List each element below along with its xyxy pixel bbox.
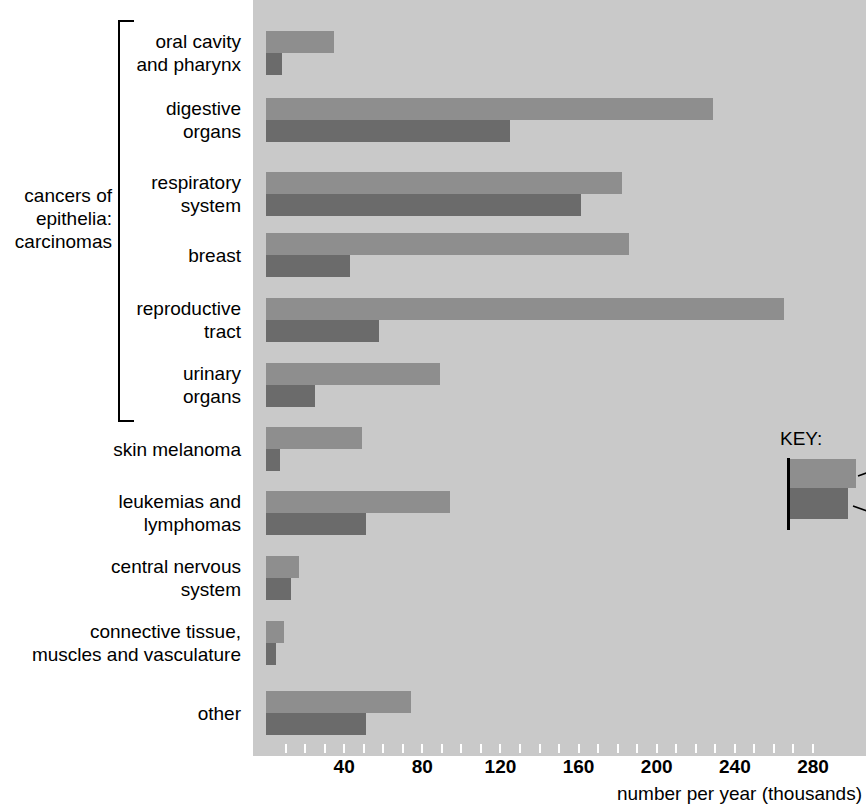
category-label: digestive organs bbox=[166, 97, 241, 143]
bar-deaths bbox=[266, 53, 282, 75]
bar-deaths bbox=[266, 513, 366, 535]
bar-deaths bbox=[266, 385, 315, 407]
bar-group-container bbox=[253, 0, 866, 756]
x-axis-tick bbox=[558, 744, 560, 753]
x-axis-tick bbox=[792, 744, 794, 753]
bar-deaths bbox=[266, 120, 510, 142]
bar-new-cases bbox=[266, 691, 411, 713]
x-axis-tick bbox=[773, 744, 775, 753]
x-axis-tick bbox=[597, 744, 599, 753]
x-axis-tick bbox=[539, 744, 541, 753]
x-axis-tick bbox=[617, 744, 619, 753]
bar-deaths bbox=[266, 194, 581, 216]
x-axis-tick bbox=[421, 744, 423, 753]
x-axis-tick bbox=[695, 744, 697, 753]
x-axis-tick bbox=[460, 744, 462, 753]
x-axis-tick-label: 80 bbox=[412, 756, 433, 778]
chart-legend: KEY: new cases per year (total = 1,220,0… bbox=[780, 428, 866, 568]
bar-new-cases bbox=[266, 172, 622, 194]
x-axis-tick bbox=[343, 744, 345, 753]
x-axis-tick bbox=[285, 744, 287, 753]
bar-new-cases bbox=[266, 98, 713, 120]
x-axis-tick bbox=[363, 744, 365, 753]
plot-area: KEY: new cases per year (total = 1,220,0… bbox=[253, 0, 866, 756]
x-axis-tick bbox=[441, 744, 443, 753]
x-axis-tick bbox=[304, 744, 306, 753]
bar-new-cases bbox=[266, 556, 299, 578]
category-label: respiratory system bbox=[151, 171, 241, 217]
x-axis-tick bbox=[324, 744, 326, 753]
bar-new-cases bbox=[266, 363, 440, 385]
x-axis-tick bbox=[578, 744, 580, 753]
x-axis-tick bbox=[519, 744, 521, 753]
legend-leader-lines bbox=[852, 448, 866, 558]
legend-swatch-deaths bbox=[790, 488, 848, 519]
category-label: reproductive tract bbox=[136, 297, 241, 343]
x-axis-tick bbox=[480, 744, 482, 753]
bar-deaths bbox=[266, 713, 366, 735]
bar-deaths bbox=[266, 578, 291, 600]
x-axis-tick bbox=[753, 744, 755, 753]
x-axis-tick-marks bbox=[253, 744, 866, 754]
bar-new-cases bbox=[266, 621, 284, 643]
x-axis-tick bbox=[636, 744, 638, 753]
category-label: urinary organs bbox=[183, 362, 241, 408]
bar-deaths bbox=[266, 643, 276, 665]
x-axis-tick bbox=[499, 744, 501, 753]
category-label: connective tissue, muscles and vasculatu… bbox=[32, 620, 241, 666]
x-axis-tick bbox=[382, 744, 384, 753]
legend-title: KEY: bbox=[780, 428, 822, 450]
category-label: other bbox=[198, 702, 241, 725]
x-axis-tick-label: 120 bbox=[485, 756, 517, 778]
x-axis-tick bbox=[402, 744, 404, 753]
x-axis-tick-label: 200 bbox=[641, 756, 673, 778]
bar-new-cases bbox=[266, 427, 362, 449]
x-axis-tick-label: 40 bbox=[334, 756, 355, 778]
category-label: leukemias and lymphomas bbox=[118, 490, 241, 536]
category-axis-labels: oral cavity and pharynxdigestive organsr… bbox=[0, 0, 249, 756]
x-axis-tick bbox=[675, 744, 677, 753]
bar-new-cases bbox=[266, 298, 784, 320]
bar-new-cases bbox=[266, 233, 629, 255]
category-label: oral cavity and pharynx bbox=[136, 30, 241, 76]
category-label: breast bbox=[188, 244, 241, 267]
x-axis-tick-label: 160 bbox=[563, 756, 595, 778]
cancer-statistics-bar-chart: cancers of epithelia: carcinomas oral ca… bbox=[0, 0, 866, 810]
x-axis-tick bbox=[812, 744, 814, 753]
x-axis-tick bbox=[714, 744, 716, 753]
x-axis-tick bbox=[734, 744, 736, 753]
bar-new-cases bbox=[266, 491, 450, 513]
legend-swatch-new-cases bbox=[790, 459, 856, 488]
x-axis-tick-label: 280 bbox=[797, 756, 829, 778]
x-axis-tick-labels: 4080120160200240280 bbox=[0, 756, 866, 782]
bar-deaths bbox=[266, 320, 379, 342]
x-axis-tick-label: 240 bbox=[719, 756, 751, 778]
category-label: central nervous system bbox=[111, 555, 241, 601]
bar-deaths bbox=[266, 449, 280, 471]
x-axis-title: number per year (thousands) bbox=[617, 783, 862, 805]
bar-new-cases bbox=[266, 31, 334, 53]
category-label: skin melanoma bbox=[113, 438, 241, 461]
x-axis-tick bbox=[656, 744, 658, 753]
bar-deaths bbox=[266, 255, 350, 277]
